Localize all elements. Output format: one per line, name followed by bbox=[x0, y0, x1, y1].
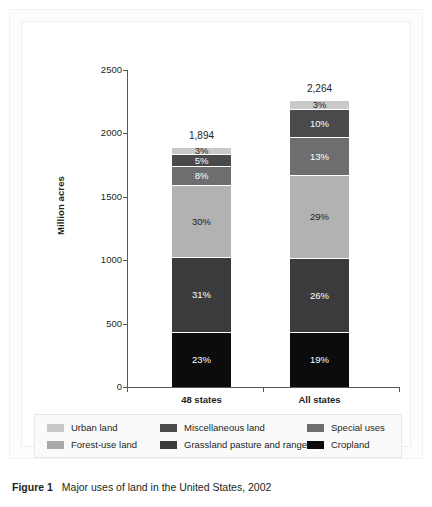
chart-plot-area: Million acres 25002000150010005000 3%5%8… bbox=[22, 22, 414, 402]
legend-item[interactable]: Urban land bbox=[47, 422, 117, 433]
stacked-bar[interactable]: 3%5%8%30%31%23% bbox=[172, 147, 231, 387]
bar-segment[interactable]: 3% bbox=[172, 147, 231, 154]
x-axis-tick-mark bbox=[263, 387, 264, 392]
bar-segment-label: 10% bbox=[310, 119, 329, 129]
y-axis-title: Million acres bbox=[55, 146, 66, 266]
y-axis-tick-label: 0 bbox=[88, 382, 122, 392]
bar-segment[interactable]: 3% bbox=[290, 100, 349, 109]
bar-segment-label: 23% bbox=[192, 355, 211, 365]
figure-root: Million acres 25002000150010005000 3%5%8… bbox=[0, 0, 432, 507]
legend-item-label: Special uses bbox=[331, 422, 385, 433]
bar-segment-label: 13% bbox=[310, 152, 329, 162]
bar-segment-label: 8% bbox=[195, 171, 209, 181]
y-axis-tick-mark bbox=[123, 324, 127, 325]
legend-swatch-icon bbox=[160, 441, 177, 449]
x-axis-tick-mark bbox=[127, 387, 128, 392]
bar-segment[interactable]: 8% bbox=[172, 166, 231, 185]
x-axis-tick-mark bbox=[399, 387, 400, 392]
y-axis-tick-mark bbox=[123, 70, 127, 71]
stacked-bar[interactable]: 3%10%13%29%26%19% bbox=[290, 100, 349, 387]
bar-segment-label: 19% bbox=[310, 355, 329, 365]
legend-item[interactable]: Forest-use land bbox=[47, 439, 137, 450]
y-axis-tick-label: 1500 bbox=[88, 192, 122, 202]
y-axis-tick-mark bbox=[123, 133, 127, 134]
x-axis-category-label: 48 states bbox=[142, 394, 262, 405]
bar-segment-label: 5% bbox=[195, 156, 209, 166]
figure-caption-label: Figure 1 bbox=[12, 481, 53, 493]
bar-segment[interactable]: 29% bbox=[290, 175, 349, 258]
y-axis-tick-label: 500 bbox=[88, 319, 122, 329]
y-axis-tick-mark bbox=[123, 197, 127, 198]
figure-caption-text: Major uses of land in the United States,… bbox=[62, 481, 272, 493]
legend-item[interactable]: Grassland pasture and range bbox=[160, 439, 307, 450]
legend-swatch-icon bbox=[160, 424, 177, 432]
legend-item-label: Cropland bbox=[331, 439, 370, 450]
bar-segment[interactable]: 31% bbox=[172, 257, 231, 331]
legend-item-label: Urban land bbox=[71, 422, 117, 433]
bar-segment-label: 29% bbox=[310, 212, 329, 222]
legend-item[interactable]: Miscellaneous land bbox=[160, 422, 265, 433]
legend-swatch-icon bbox=[307, 441, 324, 449]
y-axis-tick-mark bbox=[123, 260, 127, 261]
bar-segment[interactable]: 19% bbox=[290, 332, 349, 387]
legend-swatch-icon bbox=[47, 441, 64, 449]
bar-segment[interactable]: 30% bbox=[172, 185, 231, 257]
legend-item[interactable]: Special uses bbox=[307, 422, 385, 433]
legend-item-label: Miscellaneous land bbox=[184, 422, 265, 433]
bar-total-label: 2,264 bbox=[275, 83, 365, 94]
bar-segment[interactable]: 13% bbox=[290, 137, 349, 174]
y-axis-tick-label: 2500 bbox=[88, 65, 122, 75]
legend-item-label: Forest-use land bbox=[71, 439, 137, 450]
y-axis-line bbox=[127, 70, 128, 387]
bar-segment[interactable]: 10% bbox=[290, 109, 349, 138]
y-axis-tick-label: 1000 bbox=[88, 255, 122, 265]
bar-segment[interactable]: 23% bbox=[172, 332, 231, 387]
figure-caption: Figure 1Major uses of land in the United… bbox=[12, 481, 422, 493]
bar-segment[interactable]: 5% bbox=[172, 154, 231, 166]
bar-segment-label: 31% bbox=[192, 290, 211, 300]
figure-panel: Million acres 25002000150010005000 3%5%8… bbox=[9, 9, 423, 459]
legend-item-label: Grassland pasture and range bbox=[184, 439, 307, 450]
x-axis-category-label: All states bbox=[260, 394, 380, 405]
figure-panel-inner: Million acres 25002000150010005000 3%5%8… bbox=[21, 21, 411, 447]
bar-segment-label: 26% bbox=[310, 291, 329, 301]
chart-legend: Urban landForest-use landMiscellaneous l… bbox=[34, 414, 402, 458]
bar-segment-label: 30% bbox=[192, 217, 211, 227]
bar-segment[interactable]: 26% bbox=[290, 258, 349, 333]
y-axis-tick-label: 2000 bbox=[88, 128, 122, 138]
legend-item[interactable]: Cropland bbox=[307, 439, 370, 450]
legend-swatch-icon bbox=[307, 424, 324, 432]
legend-swatch-icon bbox=[47, 424, 64, 432]
bar-total-label: 1,894 bbox=[157, 130, 247, 141]
